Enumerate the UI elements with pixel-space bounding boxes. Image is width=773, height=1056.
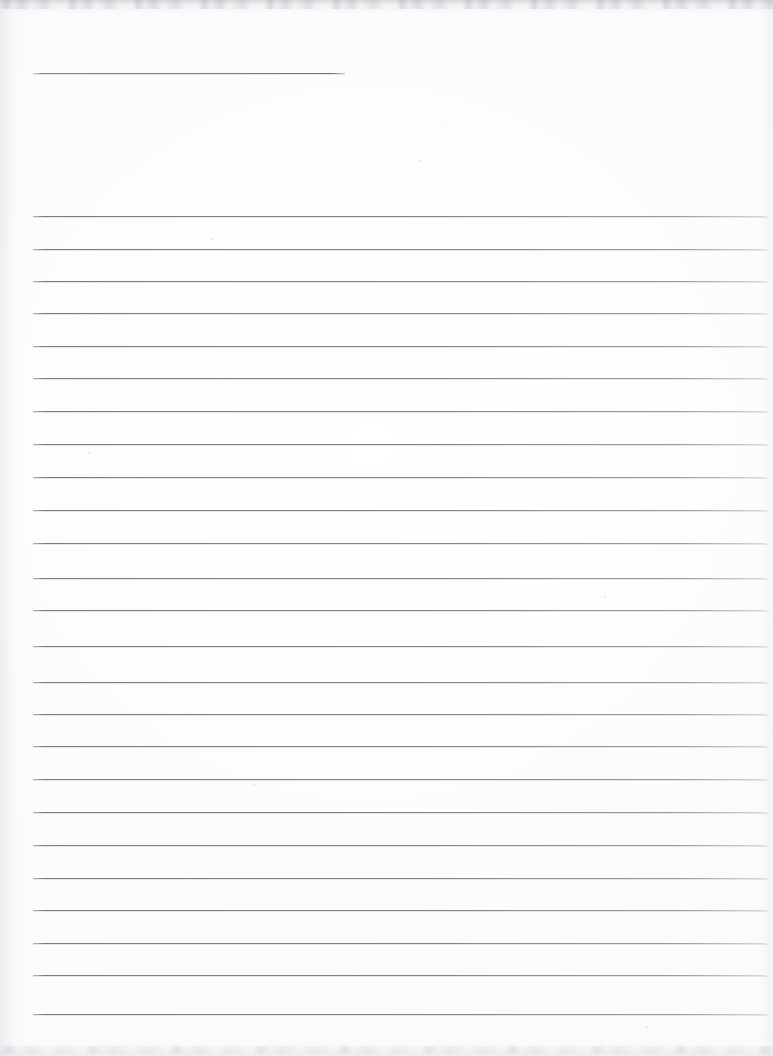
ruled-line	[33, 610, 768, 611]
ruled-line	[33, 510, 768, 511]
ruled-line	[33, 779, 768, 780]
scanner-speck	[529, 860, 530, 861]
ruled-line	[33, 943, 768, 944]
ruled-line	[33, 812, 768, 813]
scanner-speck	[162, 648, 163, 649]
ruled-line	[33, 216, 768, 217]
ruled-line	[33, 746, 768, 747]
bottom-scan-artifact-band	[0, 1034, 773, 1056]
scanner-speck	[96, 926, 97, 927]
ruled-line	[33, 444, 768, 445]
ruled-line	[33, 910, 768, 911]
ruled-line	[33, 845, 768, 846]
ruled-line	[33, 682, 768, 683]
ruled-line	[33, 281, 768, 282]
ruled-line	[33, 313, 768, 314]
scanner-speck	[419, 160, 421, 162]
header-underline-rule	[33, 73, 345, 74]
scanner-speck	[211, 238, 213, 240]
scanner-speck	[142, 366, 143, 367]
left-edge-shadow	[0, 0, 26, 1056]
ruled-line	[33, 346, 768, 347]
paper-background	[0, 0, 773, 1056]
scanner-speck	[328, 520, 329, 521]
ruled-line	[33, 878, 768, 879]
ruled-line	[33, 249, 768, 250]
ruled-line	[33, 1014, 768, 1015]
ruled-line	[33, 477, 768, 478]
ruled-line	[33, 578, 768, 579]
top-scan-artifact-band	[0, 0, 773, 14]
ruled-line	[33, 975, 768, 976]
ruled-line	[33, 714, 768, 715]
scanner-speck	[683, 720, 684, 721]
right-edge-shadow	[759, 0, 773, 1056]
scanner-speck	[496, 244, 497, 245]
ruled-line	[33, 646, 768, 647]
scanner-speck	[716, 271, 718, 273]
scanner-speck	[646, 1026, 648, 1028]
scanner-speck	[253, 784, 255, 786]
ruled-line	[33, 411, 768, 412]
scanner-speck	[604, 596, 606, 598]
ruled-line	[33, 378, 768, 379]
scanned-page	[0, 0, 773, 1056]
scanner-speck	[88, 452, 90, 454]
ruled-line	[33, 543, 768, 544]
